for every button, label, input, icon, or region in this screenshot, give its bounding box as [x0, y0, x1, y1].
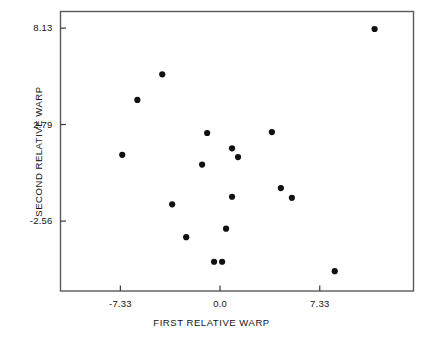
data-point	[204, 130, 210, 136]
y-tick-label: 2.79	[0, 119, 53, 130]
x-tick-label: -7.33	[90, 298, 150, 309]
data-point	[235, 154, 241, 160]
x-tick-label: 7.33	[290, 298, 350, 309]
figure-background	[0, 0, 423, 337]
data-point	[229, 194, 235, 200]
data-point	[134, 97, 140, 103]
x-tick-label: 0.0	[190, 298, 250, 309]
x-axis-title: FIRST RELATIVE WARP	[0, 317, 423, 328]
data-point	[223, 226, 229, 232]
data-point	[219, 259, 225, 265]
data-point	[169, 201, 175, 207]
scatter-plot-figure: 8.132.79-2.56 -7.330.07.33 FIRST RELATIV…	[0, 0, 423, 337]
plot-canvas	[0, 0, 423, 337]
data-point	[119, 152, 125, 158]
data-point	[199, 162, 205, 168]
data-point	[183, 234, 189, 240]
y-axis-title: SECOND RELATIVE WARP	[33, 52, 44, 252]
y-tick-label: 8.13	[0, 22, 53, 33]
data-point	[372, 26, 378, 32]
y-tick-label: -2.56	[0, 215, 53, 226]
data-point	[269, 129, 275, 135]
data-point	[211, 259, 217, 265]
data-point	[332, 268, 338, 274]
data-point	[229, 145, 235, 151]
data-point	[278, 185, 284, 191]
data-point	[289, 195, 295, 201]
data-point	[159, 71, 165, 77]
